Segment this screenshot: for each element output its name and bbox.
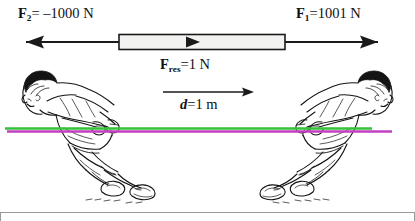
physics-figure: F2= –1000 N F1=1001 N Fres=1 N d=1 m	[0, 0, 415, 221]
force-right-label: F1=1001 N	[296, 6, 361, 23]
force-resultant-subscript: res	[169, 64, 181, 74]
force-left-value: = –1000 N	[32, 5, 94, 21]
distance-label: d=1 m	[180, 97, 218, 112]
distance-value: =1 m	[187, 96, 217, 112]
force-resultant-value: =1 N	[181, 56, 211, 72]
force-resultant-label: Fres=1 N	[160, 57, 210, 74]
force-right-value: =1001 N	[310, 5, 361, 21]
force-left-label: F2= –1000 N	[18, 6, 94, 23]
frame-left-border	[0, 212, 1, 221]
frame-bottom-border	[0, 212, 415, 213]
resultant-bar	[119, 35, 285, 50]
